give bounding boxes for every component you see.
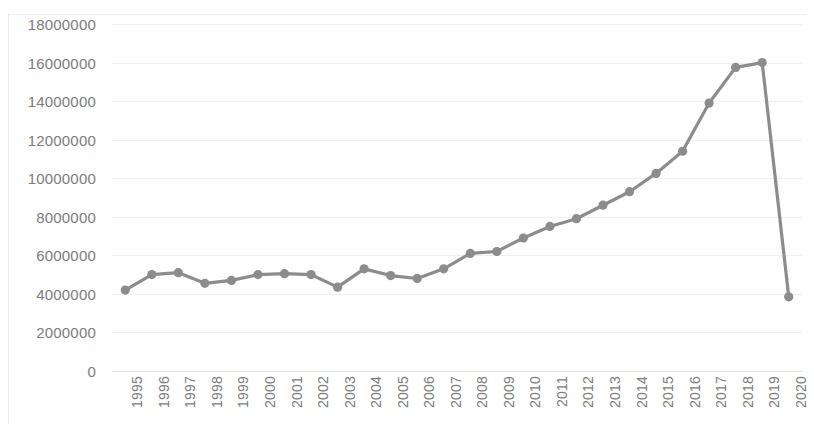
- x-axis-tick-label: 2012: [581, 376, 595, 408]
- data-point[interactable]: [121, 285, 130, 294]
- x-axis-tick-label: 2001: [290, 376, 304, 408]
- data-point[interactable]: [731, 63, 740, 72]
- data-point[interactable]: [386, 271, 395, 280]
- x-axis-tick-label: 1995: [130, 376, 144, 408]
- x-axis-tick-label: 2018: [741, 376, 755, 408]
- plot-area: [112, 24, 802, 371]
- y-axis-tick-label: 10000000: [0, 171, 104, 186]
- data-point[interactable]: [625, 187, 634, 196]
- data-point[interactable]: [360, 264, 369, 273]
- x-axis-tick-label: 1996: [157, 376, 171, 408]
- y-axis-tick-label: 16000000: [0, 56, 104, 71]
- x-axis-tick-label: 2010: [528, 376, 542, 408]
- data-point[interactable]: [545, 222, 554, 231]
- y-axis-tick-label: 14000000: [0, 94, 104, 109]
- x-axis-tick-label: 2014: [635, 376, 649, 408]
- data-point[interactable]: [705, 98, 714, 107]
- data-point[interactable]: [413, 274, 422, 283]
- x-axis-tick-label: 2015: [661, 376, 675, 408]
- x-axis-tick-label: 2009: [502, 376, 516, 408]
- data-point[interactable]: [598, 201, 607, 210]
- data-point[interactable]: [466, 249, 475, 258]
- x-axis-tick-label: 2019: [767, 376, 781, 408]
- y-axis-tick-label: 18000000: [0, 17, 104, 32]
- data-point[interactable]: [678, 147, 687, 156]
- x-axis: 1995199619971998199920002001200220032004…: [112, 376, 802, 436]
- x-axis-tick-label: 2000: [263, 376, 277, 408]
- x-axis-tick-label: 2007: [449, 376, 463, 408]
- data-point[interactable]: [174, 268, 183, 277]
- data-point[interactable]: [200, 279, 209, 288]
- x-axis-tick-label: 2002: [316, 376, 330, 408]
- x-axis-tick-label: 2013: [608, 376, 622, 408]
- data-point[interactable]: [492, 247, 501, 256]
- y-axis-tick-label: 2000000: [0, 325, 104, 340]
- y-axis-tick-label: 6000000: [0, 248, 104, 263]
- y-axis-tick-label: 4000000: [0, 287, 104, 302]
- data-series: [112, 24, 802, 371]
- y-axis-tick-label: 0: [0, 364, 104, 379]
- data-point[interactable]: [651, 169, 660, 178]
- line-chart: 0200000040000006000000800000010000000120…: [0, 0, 814, 436]
- data-point[interactable]: [519, 233, 528, 242]
- x-axis-tick-label: 2006: [422, 376, 436, 408]
- y-axis: 0200000040000006000000800000010000000120…: [0, 0, 104, 436]
- x-axis-tick-label: 2003: [343, 376, 357, 408]
- data-point[interactable]: [572, 214, 581, 223]
- x-axis-tick-label: 2011: [555, 376, 569, 407]
- data-point[interactable]: [784, 292, 793, 301]
- data-point[interactable]: [333, 283, 342, 292]
- gridline-0: [112, 371, 802, 372]
- data-point[interactable]: [253, 270, 262, 279]
- frame-top-border: [8, 14, 806, 15]
- data-point[interactable]: [280, 269, 289, 278]
- data-point[interactable]: [147, 270, 156, 279]
- series-line: [125, 63, 788, 297]
- data-point[interactable]: [227, 276, 236, 285]
- y-axis-tick-label: 12000000: [0, 133, 104, 148]
- x-axis-tick-label: 2016: [688, 376, 702, 408]
- x-axis-tick-label: 2004: [369, 376, 383, 408]
- y-axis-tick-label: 8000000: [0, 210, 104, 225]
- x-axis-tick-label: 1999: [236, 376, 250, 408]
- x-axis-tick-label: 2005: [396, 376, 410, 408]
- data-point[interactable]: [439, 264, 448, 273]
- data-point[interactable]: [758, 58, 767, 67]
- x-axis-tick-label: 1997: [183, 376, 197, 408]
- x-axis-tick-label: 2008: [475, 376, 489, 408]
- data-point[interactable]: [306, 270, 315, 279]
- x-axis-tick-label: 2017: [714, 376, 728, 408]
- x-axis-tick-label: 2020: [794, 376, 808, 408]
- x-axis-tick-label: 1998: [210, 376, 224, 408]
